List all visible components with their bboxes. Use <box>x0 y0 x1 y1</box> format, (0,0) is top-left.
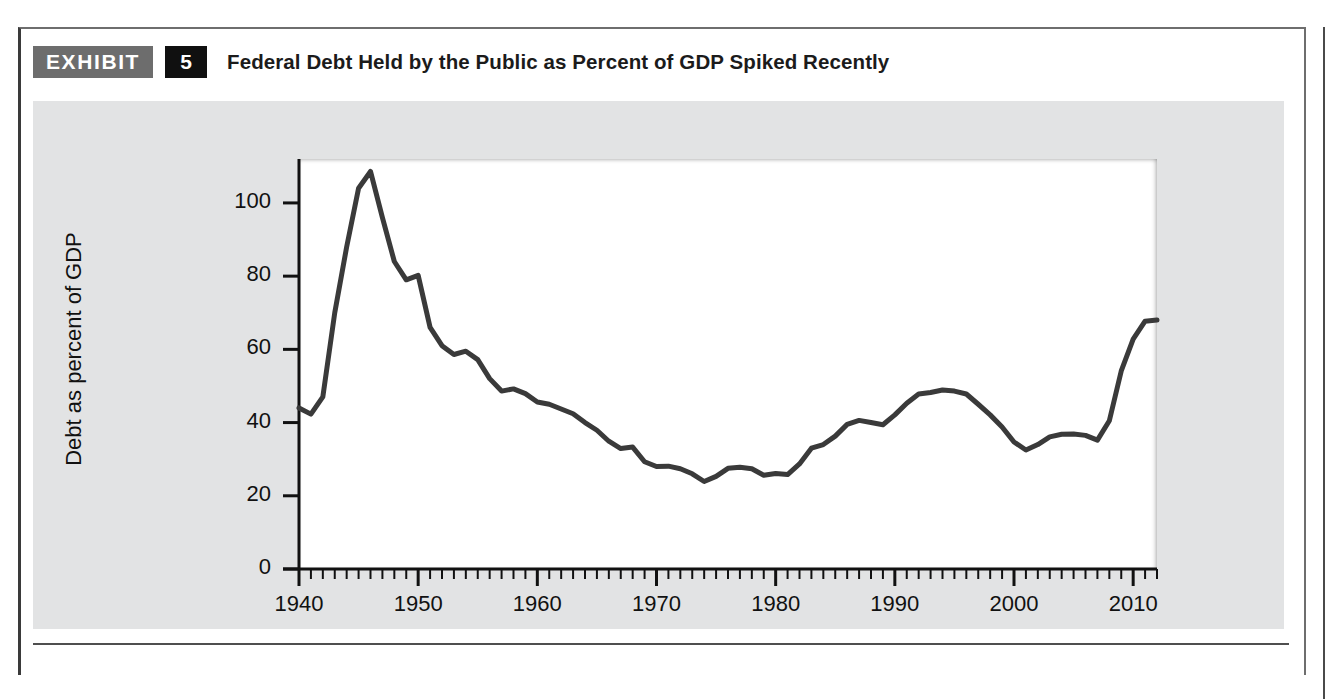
x-tick-label: 1950 <box>373 591 463 617</box>
y-tick-label: 20 <box>213 481 271 507</box>
exhibit-header: EXHIBIT 5 Federal Debt Held by the Publi… <box>33 42 889 82</box>
y-tick-label: 40 <box>213 408 271 434</box>
y-tick-label: 0 <box>213 554 271 580</box>
x-axis-ticks <box>299 569 1157 586</box>
x-tick-label: 1990 <box>850 591 940 617</box>
y-tick-label: 80 <box>213 261 271 287</box>
x-tick-label: 1940 <box>254 591 344 617</box>
exhibit-frame: EXHIBIT 5 Federal Debt Held by the Publi… <box>18 27 1306 675</box>
x-tick-label: 1970 <box>612 591 702 617</box>
x-tick-label: 1960 <box>492 591 582 617</box>
line-chart-svg <box>33 101 1284 629</box>
chart-panel: Debt as percent of GDP 020406080100 1940… <box>33 101 1284 629</box>
chart-axes <box>283 159 1157 569</box>
y-tick-label: 60 <box>213 334 271 360</box>
x-tick-label: 1980 <box>731 591 821 617</box>
page-title: Federal Debt Held by the Public as Perce… <box>227 50 889 74</box>
y-axis-ticks <box>283 203 299 569</box>
series-line-debt-percent-gdp <box>299 171 1157 481</box>
exhibit-badge: EXHIBIT <box>33 46 153 78</box>
x-tick-label: 2000 <box>969 591 1059 617</box>
data-series-group <box>299 171 1157 481</box>
x-tick-label: 2010 <box>1088 591 1178 617</box>
exhibit-number-badge: 5 <box>165 46 207 78</box>
exhibit-page: EXHIBIT 5 Federal Debt Held by the Publi… <box>0 0 1325 699</box>
panel-bottom-rule <box>33 643 1289 645</box>
y-tick-label: 100 <box>213 188 271 214</box>
